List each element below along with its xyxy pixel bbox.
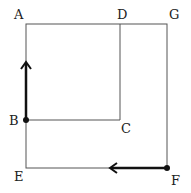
label-a: A [13, 7, 24, 22]
inner-square-abcd [26, 24, 120, 120]
label-d: D [117, 7, 127, 22]
point-f-dot [164, 165, 170, 171]
arrow-from-f-left [110, 163, 167, 173]
label-b: B [9, 113, 19, 128]
point-b-dot [23, 117, 29, 123]
label-g: G [169, 7, 179, 22]
arrow-from-b-up [21, 62, 31, 120]
label-f: F [171, 173, 180, 188]
geometry-diagram: A D G B C E F [0, 0, 191, 193]
label-e: E [14, 169, 24, 184]
outer-square-agfe [26, 24, 167, 168]
label-c: C [121, 121, 131, 136]
